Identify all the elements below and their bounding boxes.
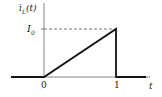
y-axis-label: iL(t) [19, 4, 37, 15]
x-tick-label-1: 1 [114, 81, 120, 90]
x-axis-label: t [149, 82, 153, 91]
x-tick-label-0: 0 [41, 81, 47, 90]
y-tick-label-i0: I0 [27, 24, 35, 36]
current-waveform-diagram: iL(t) I0 0 1 t [0, 0, 162, 97]
current-waveform-line [11, 29, 146, 77]
